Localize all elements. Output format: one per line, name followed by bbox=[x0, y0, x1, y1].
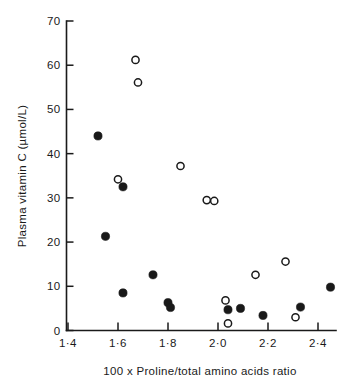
y-tick-label-40: 40 bbox=[47, 148, 61, 160]
data-point-open bbox=[211, 197, 218, 204]
data-point-open bbox=[282, 258, 289, 265]
y-tick-label-30: 30 bbox=[47, 192, 61, 204]
data-point-open bbox=[222, 297, 229, 304]
data-point-filled bbox=[326, 283, 334, 291]
x-tick-label-2·2: 2·2 bbox=[259, 337, 277, 349]
y-axis-tick-labels: 010203040506070 bbox=[47, 15, 61, 337]
data-point-open bbox=[134, 79, 141, 86]
data-point-open bbox=[292, 314, 299, 321]
data-point-filled bbox=[119, 183, 127, 191]
x-tick-label-1·8: 1·8 bbox=[159, 337, 177, 349]
axis-spines bbox=[67, 21, 337, 331]
data-point-filled bbox=[94, 132, 102, 140]
y-tick-label-10: 10 bbox=[47, 280, 61, 292]
data-point-open bbox=[224, 320, 231, 327]
data-point-filled bbox=[119, 289, 127, 297]
y-tick-label-50: 50 bbox=[47, 103, 61, 115]
data-point-filled bbox=[166, 303, 174, 311]
y-axis-title: Plasma vitamin C (µmol/L) bbox=[16, 105, 28, 248]
scatter-plot-figure: 010203040506070 1·41·61·82·02·22·4 Plasm… bbox=[0, 0, 342, 391]
data-point-open bbox=[203, 196, 210, 203]
plot-canvas: 010203040506070 1·41·61·82·02·22·4 Plasm… bbox=[0, 0, 342, 391]
data-point-open bbox=[252, 271, 259, 278]
data-point-filled bbox=[224, 306, 232, 314]
x-tick-label-2·4: 2·4 bbox=[309, 337, 327, 349]
x-axis-ticks bbox=[68, 323, 318, 331]
y-tick-label-0: 0 bbox=[54, 325, 61, 337]
x-axis-title: 100 x Proline/total amino acids ratio bbox=[103, 365, 296, 377]
data-point-filled bbox=[149, 271, 157, 279]
data-point-filled bbox=[236, 304, 244, 312]
data-point-filled bbox=[296, 303, 304, 311]
x-tick-label-2·0: 2·0 bbox=[209, 337, 227, 349]
data-point-group bbox=[94, 56, 335, 327]
x-tick-label-1·6: 1·6 bbox=[109, 337, 127, 349]
data-point-open bbox=[132, 56, 139, 63]
data-point-open bbox=[177, 162, 184, 169]
data-point-filled bbox=[259, 311, 267, 319]
y-tick-label-70: 70 bbox=[47, 15, 61, 27]
data-point-open bbox=[114, 176, 121, 183]
y-tick-label-20: 20 bbox=[47, 236, 61, 248]
y-tick-label-60: 60 bbox=[47, 59, 61, 71]
x-axis-tick-labels: 1·41·61·82·02·22·4 bbox=[59, 337, 327, 349]
y-axis-ticks bbox=[67, 21, 74, 331]
data-point-filled bbox=[101, 232, 109, 240]
x-tick-label-1·4: 1·4 bbox=[59, 337, 77, 349]
